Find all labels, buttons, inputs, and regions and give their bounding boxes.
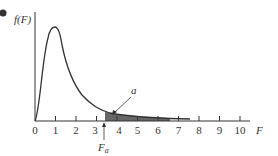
alpha-label: a bbox=[131, 84, 137, 96]
svg-text:6: 6 bbox=[155, 124, 161, 136]
x-axis-label: F bbox=[255, 124, 263, 136]
f-distribution-chart: f(F) 0 1 2 3 4 5 6 7 8 9 10 F a Fa bbox=[0, 0, 278, 156]
svg-text:10: 10 bbox=[235, 124, 247, 136]
svg-text:7: 7 bbox=[176, 124, 182, 136]
density-curve bbox=[35, 27, 190, 121]
critical-arrowhead-icon bbox=[102, 122, 106, 127]
svg-text:4: 4 bbox=[116, 124, 122, 136]
alpha-pointer bbox=[114, 97, 131, 113]
bullet-icon bbox=[0, 10, 7, 17]
svg-text:9: 9 bbox=[217, 124, 223, 136]
svg-text:0: 0 bbox=[32, 124, 38, 136]
svg-text:3: 3 bbox=[92, 124, 98, 136]
svg-text:2: 2 bbox=[73, 124, 79, 136]
critical-value-label: Fa bbox=[97, 141, 109, 155]
svg-text:1: 1 bbox=[53, 124, 59, 136]
y-axis-label: f(F) bbox=[14, 13, 31, 26]
svg-text:5: 5 bbox=[135, 124, 141, 136]
x-tick-labels: 0 1 2 3 4 5 6 7 8 9 10 bbox=[32, 124, 246, 136]
svg-text:8: 8 bbox=[196, 124, 202, 136]
